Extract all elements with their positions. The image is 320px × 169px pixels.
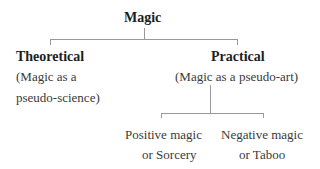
- root-node-magic: Magic: [124, 11, 161, 25]
- branch-theoretical-title: Theoretical: [16, 50, 84, 64]
- branch-theoretical-subtitle-line2: pseudo-science): [16, 91, 100, 104]
- child-negative-magic-line2: or Taboo: [239, 148, 285, 161]
- connector-root-down: [144, 28, 145, 39]
- branch-practical-subtitle: (Magic as a pseudo-art): [175, 70, 298, 83]
- connector-practical-down: [210, 85, 211, 113]
- child-negative-magic-line1: Negative magic: [221, 128, 303, 141]
- connector-branch-horizontal: [50, 39, 238, 40]
- child-positive-magic-line1: Positive magic: [125, 128, 202, 141]
- connector-positive-drop: [161, 113, 162, 118]
- branch-practical-title: Practical: [211, 50, 265, 64]
- connector-theoretical-drop: [50, 39, 51, 45]
- connector-children-horizontal: [161, 113, 264, 114]
- connector-practical-drop: [237, 39, 238, 45]
- branch-theoretical-subtitle-line1: (Magic as a: [16, 70, 77, 83]
- child-positive-magic-line2: or Sorcery: [142, 148, 197, 161]
- connector-negative-drop: [263, 113, 264, 118]
